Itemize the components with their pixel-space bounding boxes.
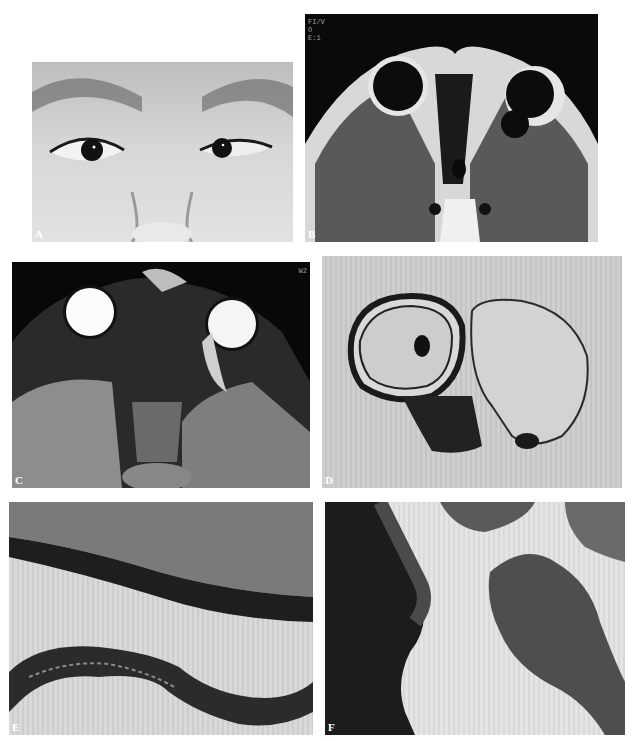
panel-c-mri-t2: W2 C xyxy=(12,262,310,488)
mri-t2-graphic xyxy=(12,262,310,488)
histology-e-graphic xyxy=(9,502,313,735)
histology-f-graphic xyxy=(325,502,625,735)
mri-overlay-text: FI/V O E:1 xyxy=(308,18,325,42)
panel-f-histology: F xyxy=(325,502,625,735)
specimen-graphic xyxy=(322,256,622,488)
panel-b-mri-t1: FI/V O E:1 B xyxy=(305,14,598,242)
panel-label: B xyxy=(308,229,315,240)
mri-t1-graphic xyxy=(305,14,598,242)
panel-label: D xyxy=(325,475,333,486)
mri-overlay-text: W2 xyxy=(299,267,307,275)
panel-a-clinical-photo: A xyxy=(32,62,293,242)
panel-e-histology: E xyxy=(9,502,313,735)
panel-label: A xyxy=(35,229,43,240)
face-photo-graphic xyxy=(32,62,293,242)
panel-label: F xyxy=(328,722,335,733)
panel-d-gross-specimen: D xyxy=(322,256,622,488)
panel-label: E xyxy=(12,722,19,733)
panel-label: C xyxy=(15,475,23,486)
